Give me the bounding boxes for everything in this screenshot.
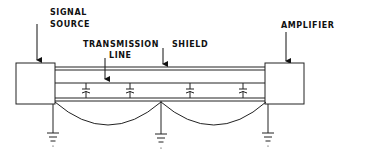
ground-icon xyxy=(262,104,274,147)
label-shield: SHIELD xyxy=(172,40,208,49)
shielded-transmission-diagram: SIGNAL SOURCE TRANSMISSION LINE SHIELD A… xyxy=(0,0,365,160)
capacitor-icon xyxy=(82,83,90,98)
capacitor-icon xyxy=(186,83,194,98)
ground-icon xyxy=(47,104,59,147)
amplifier-box xyxy=(265,63,304,104)
label-signal-source-2: SOURCE xyxy=(50,20,90,29)
stray-capacitors xyxy=(82,83,247,98)
capacitor-icon xyxy=(126,83,134,98)
label-transmission-line-1: TRANSMISSION xyxy=(83,40,159,49)
signal-source-box xyxy=(16,63,55,104)
capacitor-icon xyxy=(239,83,247,98)
ground-icon xyxy=(155,101,167,149)
label-amplifier: AMPLIFIER xyxy=(281,21,335,30)
ground-symbols xyxy=(47,101,274,149)
label-signal-source-1: SIGNAL xyxy=(50,8,87,17)
label-arrows xyxy=(37,24,286,79)
label-transmission-line-2: LINE xyxy=(109,51,132,60)
